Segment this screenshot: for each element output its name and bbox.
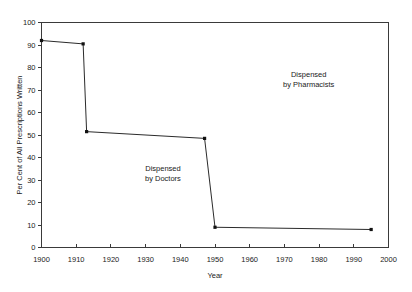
y-tick-label: 90	[27, 41, 35, 50]
x-tick-label: 1960	[241, 255, 258, 264]
dispensed-by-doctors-annotation-line2: by Doctors	[145, 174, 181, 183]
y-tick-label: 20	[27, 198, 35, 207]
x-tick-label: 1980	[311, 255, 328, 264]
data-point-marker	[82, 42, 85, 45]
x-axis-title: Year	[207, 271, 223, 280]
x-tick-label: 1970	[276, 255, 293, 264]
plot-frame	[42, 23, 389, 248]
x-tick-label: 1990	[345, 255, 362, 264]
y-tick-label: 60	[27, 108, 35, 117]
data-point-marker	[85, 130, 88, 133]
x-tick-label: 1940	[172, 255, 189, 264]
y-tick-label: 70	[27, 86, 35, 95]
y-tick-label: 30	[27, 176, 35, 185]
y-tick-label: 100	[23, 18, 36, 27]
line-chart: 0102030405060708090100 19001910192019301…	[0, 0, 412, 292]
data-point-marker	[370, 228, 373, 231]
y-tick-label: 50	[27, 131, 35, 140]
x-tick-label: 2000	[380, 255, 397, 264]
x-tick-label: 1930	[137, 255, 154, 264]
plot-border	[42, 23, 389, 248]
data-point-marker	[213, 226, 216, 229]
data-point-marker	[203, 137, 206, 140]
annotation-layer: Dispensedby DoctorsDispensedby Pharmacis…	[145, 70, 335, 184]
y-axis-ticks: 0102030405060708090100	[23, 18, 42, 252]
x-axis-ticks: 1900191019201930194019501960197019801990…	[33, 244, 397, 264]
x-tick-label: 1920	[103, 255, 120, 264]
series-layer	[40, 39, 373, 231]
dispensed-by-pharmacists-annotation-line2: by Pharmacists	[283, 80, 335, 89]
y-tick-label: 80	[27, 63, 35, 72]
x-tick-label: 1900	[33, 255, 50, 264]
chart-container: 0102030405060708090100 19001910192019301…	[0, 0, 412, 292]
dispensed-by-doctors-annotation-line1: Dispensed	[145, 164, 180, 173]
x-tick-label: 1910	[68, 255, 85, 264]
y-tick-label: 0	[31, 243, 35, 252]
y-tick-label: 10	[27, 221, 35, 230]
y-axis-title: Per Cent of All Prescriptions Written	[15, 75, 24, 194]
dispensed-by-pharmacists-annotation-line1: Dispensed	[291, 70, 326, 79]
x-tick-label: 1950	[207, 255, 224, 264]
data-point-marker	[40, 39, 43, 42]
y-tick-label: 40	[27, 153, 35, 162]
